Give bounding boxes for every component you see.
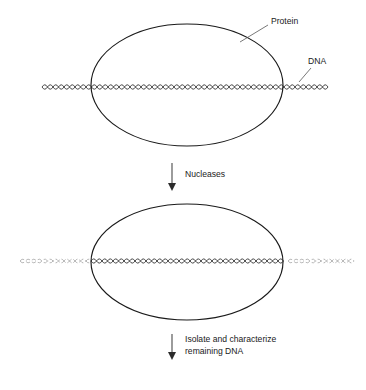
dna-leader-line-icon [299, 68, 311, 82]
panel-before-digestion: Protein DNA [42, 16, 328, 146]
dna-fragment-left-degraded [20, 259, 92, 263]
nucleases-step: Nucleases [168, 163, 225, 191]
dna-fragment-right-degraded [288, 259, 354, 263]
panel-after-digestion [20, 204, 354, 320]
arrow-head-icon [168, 183, 176, 191]
protein-label: Protein [271, 16, 298, 26]
dna-fragment-left-strand-b [20, 259, 92, 263]
dna-label: DNA [308, 56, 326, 66]
nucleases-label: Nucleases [185, 169, 225, 179]
nuclease-protection-diagram: Protein DNA Nucleases Isol [0, 0, 366, 390]
dna-strand-intact [42, 85, 328, 89]
isolate-step: Isolate and characterize remaining DNA [168, 334, 276, 360]
dna-protected-segment [91, 259, 284, 263]
isolate-label-line2: remaining DNA [185, 346, 244, 356]
protein-leader-line-icon [240, 25, 268, 42]
arrow-head-icon-2 [168, 352, 176, 360]
isolate-label-line1: Isolate and characterize [185, 334, 276, 344]
